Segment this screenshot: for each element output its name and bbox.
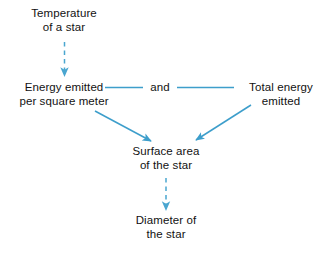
node-total-energy-emitted: Total energy emitted — [238, 80, 324, 108]
flow-diagram: Temperature of a star Energy emitted per… — [0, 0, 328, 263]
node-temperature-line2: of a star — [12, 20, 116, 34]
node-temperature-line1: Temperature — [31, 7, 97, 19]
node-energy-emitted-per-square-meter: Energy emitted per square meter — [0, 80, 128, 108]
node-energy-per-area-line2: per square meter — [0, 94, 128, 108]
node-conjunction-and: and — [140, 80, 180, 94]
node-total-energy-line1: Total energy — [249, 81, 313, 93]
node-surface-area-line1: Surface area — [132, 145, 199, 157]
node-diameter-of-the-star: Diameter of the star — [114, 213, 218, 241]
edge-total-energy-to-surface-area — [196, 105, 251, 140]
node-temperature: Temperature of a star — [12, 6, 116, 34]
node-surface-area-of-the-star: Surface area of the star — [114, 144, 218, 172]
node-energy-per-area-line1: Energy emitted — [25, 81, 104, 93]
node-diameter-line1: Diameter of — [136, 214, 197, 226]
node-surface-area-line2: of the star — [114, 158, 218, 172]
node-diameter-line2: the star — [114, 227, 218, 241]
edge-energy-to-surface-area — [95, 111, 151, 141]
node-total-energy-line2: emitted — [238, 94, 324, 108]
node-conjunction-label: and — [150, 81, 170, 93]
